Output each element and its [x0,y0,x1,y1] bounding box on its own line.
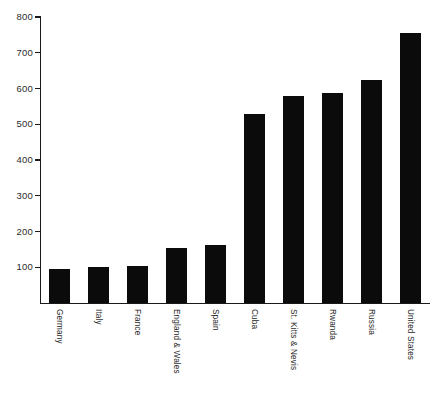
bar [244,114,265,303]
bar-chart: 100200300400500600700800 GermanyItalyFra… [0,0,435,393]
bar [49,269,70,303]
x-tick-label: Rwanda [327,309,335,340]
bar [88,267,109,303]
bar [205,245,226,303]
x-tick-label: Russia [366,309,374,335]
bar [400,33,421,303]
x-tick-label: Spain [210,309,218,331]
x-tick-label: England & Wales [171,309,179,374]
x-tick-label: Italy [93,309,101,325]
bar [361,80,382,303]
bar [127,266,148,303]
x-tick-label: Cuba [249,309,257,329]
x-tick-label: France [132,309,140,335]
x-tick-label: United States [405,309,413,360]
bar [322,93,343,303]
x-tick-label: St. Kitts & Nevis [288,309,296,370]
bar [283,96,304,303]
bar [166,248,187,303]
x-tick-label: Germany [54,309,62,344]
